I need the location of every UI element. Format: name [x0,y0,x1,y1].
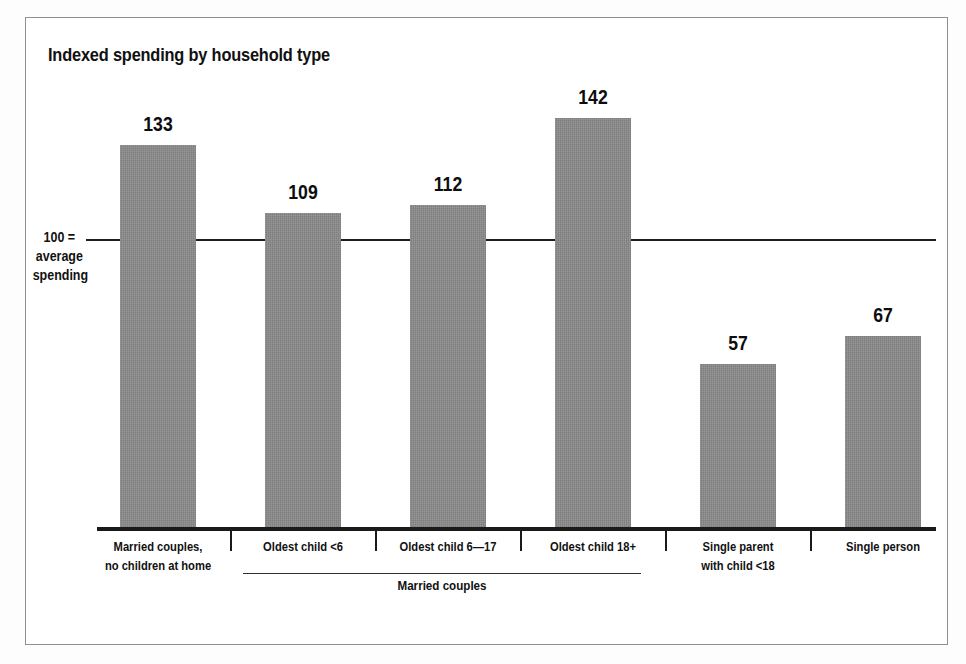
average-label-line-1: 100 = [33,228,86,247]
bar-value-label: 67 [851,303,915,327]
category-label-single-parent: Single parent with child <18 [678,537,798,575]
category-label-line: Single parent [678,537,798,556]
average-label-line-3: spending [33,266,86,285]
category-label-line: Oldest child 18+ [533,537,653,556]
category-label-single-person: Single person [823,537,943,556]
chart-page: Indexed spending by household type 100 =… [0,0,966,664]
group-bracket-line [243,573,641,574]
category-label-line: Married couples, [98,537,218,556]
category-label-married-no-children: Married couples, no children at home [98,537,218,575]
bar-single-parent-child-under-18[interactable] [700,364,776,528]
bar-married-no-children[interactable] [120,145,196,528]
average-reference-label: 100 = average spending [33,228,86,285]
category-label-line: no children at home [98,556,218,575]
bar-value-label: 133 [126,112,190,136]
average-reference-dash [86,239,108,241]
category-label-oldest-child-18-plus: Oldest child 18+ [533,537,653,556]
axis-tick [810,531,812,551]
category-label-oldest-child-under-6: Oldest child <6 [243,537,363,556]
average-label-line-2: average [33,247,86,266]
category-label-line: Single person [823,537,943,556]
axis-tick [520,531,522,551]
bar-value-label: 57 [706,331,770,355]
axis-tick [375,531,377,551]
bar-single-person[interactable] [845,336,921,528]
plot-area: 100 = average spending 133 109 112 142 5… [0,0,966,664]
category-label-line: Oldest child <6 [243,537,363,556]
category-label-oldest-child-6-17: Oldest child 6—17 [388,537,508,556]
bar-oldest-child-under-6[interactable] [265,213,341,528]
bar-oldest-child-6-17[interactable] [410,205,486,528]
category-label-line: with child <18 [678,556,798,575]
group-bracket-label: Married couples [313,578,571,593]
axis-tick [230,531,232,551]
bar-oldest-child-18-plus[interactable] [555,118,631,528]
bar-value-label: 109 [271,180,335,204]
bar-value-label: 112 [416,172,480,196]
category-label-line: Oldest child 6—17 [388,537,508,556]
bar-value-label: 142 [561,85,625,109]
average-reference-line [97,239,936,241]
axis-tick [665,531,667,551]
